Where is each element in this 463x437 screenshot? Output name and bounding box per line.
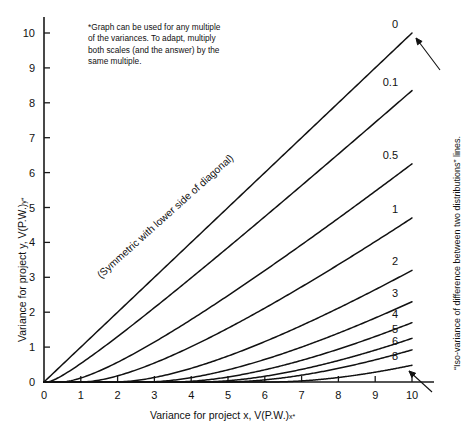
y-tick-label: 9 [29, 62, 35, 74]
x-tick-label: 7 [299, 389, 305, 401]
y-axis-title-sup: * [20, 197, 27, 200]
x-tick-label: 9 [372, 389, 378, 401]
annotation-leader-lines [409, 38, 440, 392]
x-tick-label: 10 [406, 389, 418, 401]
footnote-text: *Graph can be used for any multiple of t… [88, 22, 264, 68]
iso-variance-curves [44, 33, 412, 382]
iso-variance-curve [44, 218, 412, 382]
curve-label: 1 [392, 203, 398, 215]
curve-label: 6 [392, 335, 398, 347]
y-tick-label: 0 [29, 376, 35, 388]
iso-variance-curve [44, 323, 412, 382]
figure-canvas: 012345678910012345678910 00.10.51234568 … [0, 0, 463, 437]
curve-label: 2 [392, 255, 398, 267]
y-axis-title-sub: y [20, 200, 27, 204]
x-tick-label: 1 [78, 389, 84, 401]
x-tick-label: 5 [225, 389, 231, 401]
curve-label: 3 [392, 287, 398, 299]
curve-label: 0.5 [383, 149, 398, 161]
y-tick-label: 5 [29, 202, 35, 214]
x-tick-label: 6 [262, 389, 268, 401]
x-tick-label: 4 [188, 389, 194, 401]
x-axis-title: Variance for project x, V(P.W.)x* [150, 409, 295, 421]
y-tick-label: 6 [29, 167, 35, 179]
curve-label: 0 [392, 18, 398, 30]
leader-top-head [416, 38, 422, 45]
x-axis-title-main: Variance for project x, V(P.W.) [150, 409, 289, 421]
iso-variance-curve [44, 33, 412, 382]
x-tick-label: 0 [41, 389, 47, 401]
iso-variance-curve [44, 302, 412, 382]
x-axis-title-sup: * [293, 413, 296, 420]
curve-label: 0.1 [383, 76, 398, 88]
y-tick-label: 10 [23, 27, 35, 39]
y-axis-title: Variance for project y, V(P.W.)y* [16, 197, 28, 342]
x-tick-label: 3 [151, 389, 157, 401]
y-tick-label: 8 [29, 97, 35, 109]
curve-label: 4 [392, 308, 398, 320]
iso-variance-annotation: “Iso-variance of difference between two … [452, 136, 462, 370]
y-tick-label: 2 [29, 306, 35, 318]
curve-label: 5 [392, 323, 398, 335]
y-tick-label: 3 [29, 271, 35, 283]
y-tick-label: 1 [29, 341, 35, 353]
y-tick-label: 4 [29, 236, 35, 248]
iso-variance-curve [44, 91, 412, 382]
x-tick-label: 8 [335, 389, 341, 401]
x-tick-label: 2 [115, 389, 121, 401]
curve-label: 8 [392, 350, 398, 362]
y-axis-title-main: Variance for project y, V(P.W.) [16, 204, 28, 342]
y-tick-label: 7 [29, 132, 35, 144]
